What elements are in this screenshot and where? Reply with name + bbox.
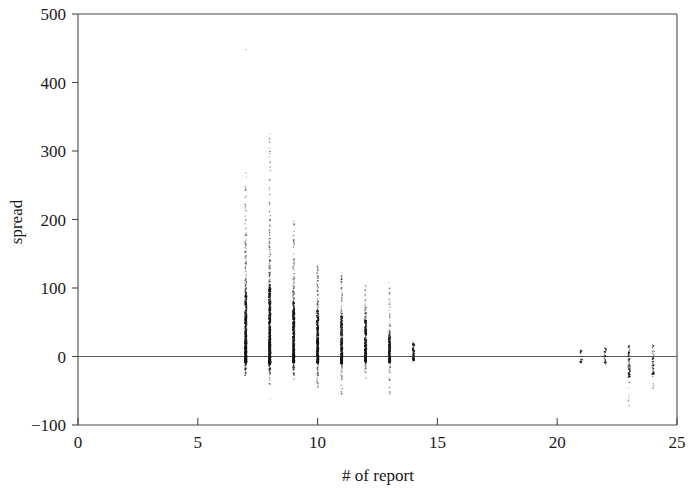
data-point [413, 354, 414, 355]
data-point [366, 330, 367, 331]
data-point [269, 331, 270, 332]
data-point [316, 345, 317, 346]
data-point [389, 379, 390, 380]
data-point [292, 311, 293, 312]
data-point [246, 281, 247, 282]
data-point [390, 337, 391, 338]
data-point [245, 313, 246, 314]
data-point [245, 227, 246, 228]
data-point [366, 367, 367, 368]
data-point [245, 318, 246, 319]
data-point [245, 269, 246, 270]
data-point [246, 262, 247, 263]
data-point [245, 251, 246, 252]
data-point [292, 336, 293, 337]
data-point [653, 346, 654, 347]
data-point [268, 352, 269, 353]
data-point [317, 348, 318, 349]
data-point [366, 353, 367, 354]
data-point [317, 365, 318, 366]
data-point [365, 370, 366, 371]
data-point [293, 241, 294, 242]
data-point [388, 282, 389, 283]
data-point [270, 314, 271, 315]
data-point [246, 196, 247, 197]
data-point [269, 378, 270, 379]
data-point [244, 263, 245, 264]
data-point [269, 138, 270, 139]
data-point [269, 380, 270, 381]
data-point [245, 302, 246, 303]
data-point [413, 358, 414, 359]
data-point [269, 235, 270, 236]
data-point [628, 368, 629, 369]
data-point [245, 190, 246, 191]
data-point [246, 336, 247, 337]
y-axis-tick-labels: −1000100200300400500 [31, 5, 66, 435]
data-point [270, 249, 271, 250]
data-point [269, 375, 270, 376]
data-point [270, 279, 271, 280]
data-point [268, 245, 269, 246]
data-point [293, 324, 294, 325]
data-point [269, 259, 270, 260]
data-point [653, 361, 654, 362]
data-point [629, 364, 630, 365]
data-point [364, 317, 365, 318]
data-point [652, 347, 653, 348]
data-point [293, 302, 294, 303]
data-point [245, 364, 246, 365]
data-point [412, 361, 413, 362]
data-point [270, 293, 271, 294]
data-point [293, 268, 294, 269]
data-point [269, 302, 270, 303]
data-point [388, 339, 389, 340]
data-point [317, 278, 318, 279]
data-point [389, 320, 390, 321]
x-tick-label: 15 [429, 433, 446, 452]
data-point [317, 368, 318, 369]
data-point [293, 253, 294, 254]
data-point [293, 247, 294, 248]
data-point [316, 336, 317, 337]
data-point [269, 321, 270, 322]
data-point [317, 270, 318, 271]
data-point [270, 219, 271, 220]
data-point [270, 215, 271, 216]
data-point [341, 361, 342, 362]
data-point [294, 344, 295, 345]
data-point [342, 294, 343, 295]
data-point [269, 336, 270, 337]
data-point [269, 287, 270, 288]
data-point [294, 305, 295, 306]
data-point [317, 309, 318, 310]
data-point [269, 256, 270, 257]
data-point [246, 349, 247, 350]
data-point [269, 359, 270, 360]
data-point [604, 352, 605, 353]
data-point [364, 348, 365, 349]
data-point [365, 336, 366, 337]
data-point [269, 204, 270, 205]
data-point [244, 349, 245, 350]
data-point [341, 322, 342, 323]
data-point [390, 353, 391, 354]
data-point [365, 286, 366, 287]
data-point [245, 363, 246, 364]
data-point [245, 266, 246, 267]
data-point [270, 310, 271, 311]
data-point [342, 340, 343, 341]
data-point [294, 261, 295, 262]
data-point [652, 365, 653, 366]
data-point [268, 383, 269, 384]
data-point [341, 283, 342, 284]
data-point [342, 360, 343, 361]
data-point [364, 371, 365, 372]
data-point [246, 293, 247, 294]
data-point [294, 348, 295, 349]
data-point [390, 331, 391, 332]
data-point [270, 351, 271, 352]
data-point [269, 355, 270, 356]
data-point [652, 353, 653, 354]
data-point [293, 220, 294, 221]
